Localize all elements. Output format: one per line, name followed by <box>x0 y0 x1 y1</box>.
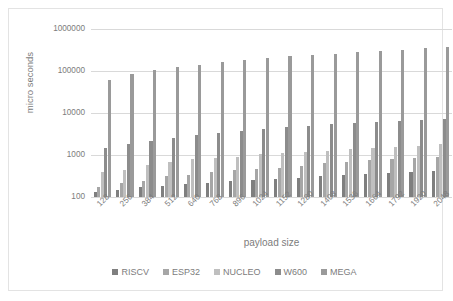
bar-mega[interactable] <box>311 55 314 197</box>
x-tick: 384 <box>136 199 159 239</box>
x-tick: 1408 <box>317 199 340 239</box>
bar-group <box>249 29 272 197</box>
legend-item-mega[interactable]: MEGA <box>321 267 357 277</box>
legend-swatch-icon <box>214 269 220 275</box>
bar-group <box>204 29 227 197</box>
bar-mega[interactable] <box>356 52 359 197</box>
bar-group <box>136 29 159 197</box>
bar-group <box>114 29 137 197</box>
x-tick: 1920 <box>407 199 430 239</box>
bar-mega[interactable] <box>130 74 133 197</box>
bar-mega[interactable] <box>334 54 337 197</box>
legend-swatch-icon <box>163 269 169 275</box>
plot-area <box>91 29 452 197</box>
bar-group <box>272 29 295 197</box>
legend-swatch-icon <box>275 269 281 275</box>
legend-label: ESP32 <box>172 267 200 277</box>
legend-swatch-icon <box>112 269 118 275</box>
x-tick: 896 <box>226 199 249 239</box>
bar-mega[interactable] <box>424 48 427 197</box>
x-tick: 1024 <box>249 199 272 239</box>
legend-item-esp32[interactable]: ESP32 <box>163 267 200 277</box>
x-tick: 1280 <box>294 199 317 239</box>
chart-frame: 1001000100001000001000000 micro seconds … <box>8 8 443 291</box>
x-tick: 128 <box>91 199 114 239</box>
legend-label: NUCLEO <box>223 267 261 277</box>
bar-group <box>226 29 249 197</box>
x-tick: 640 <box>181 199 204 239</box>
legend-item-riscv[interactable]: RISCV <box>112 267 149 277</box>
bar-group <box>181 29 204 197</box>
x-tick: 768 <box>204 199 227 239</box>
legend-item-w600[interactable]: W600 <box>275 267 308 277</box>
x-tick: 1664 <box>362 199 385 239</box>
bar-group <box>294 29 317 197</box>
x-tick: 256 <box>114 199 137 239</box>
legend-label: MEGA <box>330 267 357 277</box>
x-tick: 512 <box>159 199 182 239</box>
chart-legend: RISCVESP32NUCLEOW600MEGA <box>17 267 452 277</box>
bar-mega[interactable] <box>446 47 449 197</box>
x-tick: 1792 <box>384 199 407 239</box>
bar-group <box>429 29 452 197</box>
bar-group <box>159 29 182 197</box>
bar-mega[interactable] <box>198 65 201 197</box>
y-tick-label: 100 <box>23 193 85 201</box>
y-axis-title: micro seconds <box>24 23 35 143</box>
x-axis-title: payload size <box>91 237 452 248</box>
bar-group <box>317 29 340 197</box>
bar-mega[interactable] <box>153 70 156 197</box>
bar-mega[interactable] <box>108 80 111 197</box>
x-tick: 1152 <box>272 199 295 239</box>
x-axis-tick-labels: 1282563845126407688961024115212801408153… <box>91 199 452 239</box>
bar-group <box>362 29 385 197</box>
bar-mega[interactable] <box>379 51 382 197</box>
bar-mega[interactable] <box>266 58 269 197</box>
bar-mega[interactable] <box>221 62 224 197</box>
bar-mega[interactable] <box>401 50 404 197</box>
legend-label: RISCV <box>121 267 149 277</box>
bar-group <box>384 29 407 197</box>
bar-mega[interactable] <box>243 60 246 198</box>
bar-mega[interactable] <box>288 56 291 197</box>
bar-mega[interactable] <box>176 67 179 197</box>
bar-groups <box>91 29 452 197</box>
bar-group <box>339 29 362 197</box>
legend-item-nucleo[interactable]: NUCLEO <box>214 267 261 277</box>
legend-swatch-icon <box>321 269 327 275</box>
legend-label: W600 <box>284 267 308 277</box>
x-tick: 1536 <box>339 199 362 239</box>
x-tick: 2048 <box>429 199 452 239</box>
bar-group <box>91 29 114 197</box>
y-tick-label: 1000 <box>23 151 85 159</box>
bar-group <box>407 29 430 197</box>
